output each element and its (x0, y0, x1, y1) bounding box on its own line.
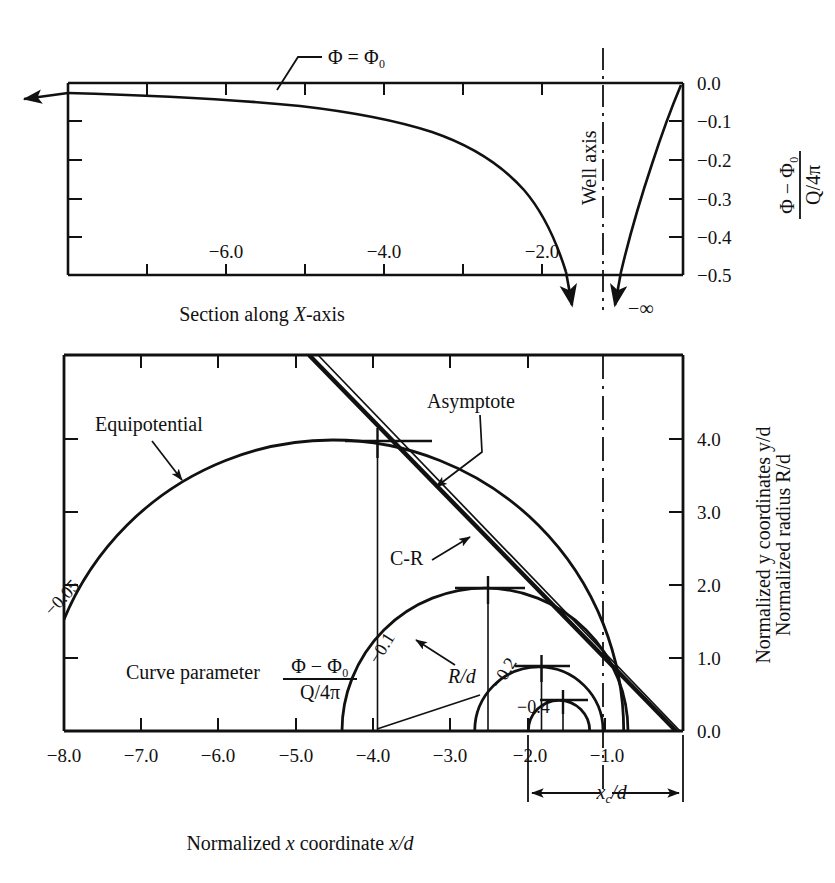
top-xtick--6: −6.0 (209, 241, 243, 262)
bot-ytick-4.0: 4.0 (697, 429, 721, 450)
drawdown-left-branch (68, 93, 566, 272)
top-panel-x-tick-labels: −6.0 −4.0 −2.0 (209, 241, 559, 262)
top-panel-left-extension-arrow (24, 93, 68, 99)
minus-infinity-label: −∞ (628, 297, 654, 319)
top-ytick--0.3: −0.3 (697, 189, 731, 210)
bot-xtick--8: −8.0 (47, 745, 81, 766)
bottom-y-axis-title-radius: Normalized radius R/d (772, 454, 794, 636)
contour-label--0.1: −0.1 (364, 629, 398, 667)
bottom-panel-x-tick-labels: −8.0 −7.0 −6.0 −5.0 −4.0 −3.0 −2.0 −1.0 (47, 745, 624, 766)
curve-parameter-text: Curve parameter (126, 661, 260, 684)
bot-ytick-3.0: 3.0 (697, 502, 721, 523)
bot-xtick--6: −6.0 (201, 745, 235, 766)
top-ytick--0.4: −0.4 (697, 227, 732, 248)
top-ytick--0.2: −0.2 (697, 150, 731, 171)
bot-xtick--4: −4.0 (356, 745, 390, 766)
top-ytick--0.5: −0.5 (697, 265, 731, 286)
bottom-y-axis-title-ycoord: Normalized y coordinates y/d (752, 426, 775, 663)
top-y-title-numerator: Φ − Φ₀ (776, 156, 798, 214)
c-r-annotation: C-R (390, 547, 424, 569)
curve-parameter-denominator: Q/4π (300, 681, 340, 703)
bottom-panel: Equipotential Asymptote C-R R/d −0.05 −0… (40, 355, 794, 854)
bot-xtick--5: −5.0 (279, 745, 313, 766)
bot-ytick-0.0: 0.0 (697, 721, 721, 742)
bot-xtick--7: −7.0 (124, 745, 158, 766)
top-xtick--2: −2.0 (525, 241, 559, 262)
top-ytick--0.1: −0.1 (697, 111, 731, 132)
top-panel-y-axis-title: Φ − Φ₀ Q/4π (776, 151, 824, 219)
phi-equals-phi0-label: Φ = Φ₀ (328, 46, 386, 68)
top-panel-infinity-arrows (566, 272, 621, 305)
top-ytick-0.0: 0.0 (697, 73, 721, 94)
c-r-leader (432, 537, 470, 560)
curve-parameter-block: Curve parameter Φ − Φ₀ Q/4π (126, 655, 357, 703)
xc-over-d-label: −xc/d (585, 781, 628, 806)
bot-xtick--1: −1.0 (590, 745, 624, 766)
r-over-d-leader (377, 695, 480, 729)
figure-root: Φ = Φ₀ Well axis −∞ −6.0 −4.0 −2.0 0. (0, 0, 835, 883)
r-over-d-annotation: R/d (447, 665, 477, 687)
top-panel-y-tick-labels: 0.0 −0.1 −0.2 −0.3 −0.4 −0.5 (697, 73, 732, 286)
phi-equals-phi0-leader (277, 57, 322, 90)
top-panel-caption: Section along X-axis (179, 303, 345, 326)
bottom-panel-y-ticks (64, 439, 683, 658)
bot-xtick--3: −3.0 (433, 745, 467, 766)
contour-label--0.4: −0.4 (517, 697, 550, 717)
equipotential-leader (152, 441, 182, 480)
equipotential-annotation: Equipotential (95, 413, 203, 436)
bot-ytick-1.0: 1.0 (697, 648, 721, 669)
curve-parameter-numerator: Φ − Φ₀ (291, 655, 349, 677)
contour-label--0.05: −0.05 (40, 576, 83, 620)
top-xtick--4: −4.0 (367, 241, 401, 262)
top-y-title-denominator: Q/4π (802, 165, 824, 205)
r-over-d-leader-2 (416, 640, 455, 665)
well-axis-label: Well axis (578, 130, 600, 205)
bot-ytick-2.0: 2.0 (697, 575, 721, 596)
bottom-x-axis-title: Normalized x coordinate x/d (186, 832, 414, 854)
bottom-panel-y-tick-labels: 0.0 1.0 2.0 3.0 4.0 (697, 429, 721, 742)
bot-xtick--2: −2.0 (513, 745, 547, 766)
top-panel: Φ = Φ₀ Well axis −∞ −6.0 −4.0 −2.0 0. (24, 46, 824, 326)
drawdown-right-branch (621, 85, 681, 272)
figure-svg: Φ = Φ₀ Well axis −∞ −6.0 −4.0 −2.0 0. (0, 0, 835, 883)
asymptote-annotation: Asymptote (427, 390, 515, 413)
